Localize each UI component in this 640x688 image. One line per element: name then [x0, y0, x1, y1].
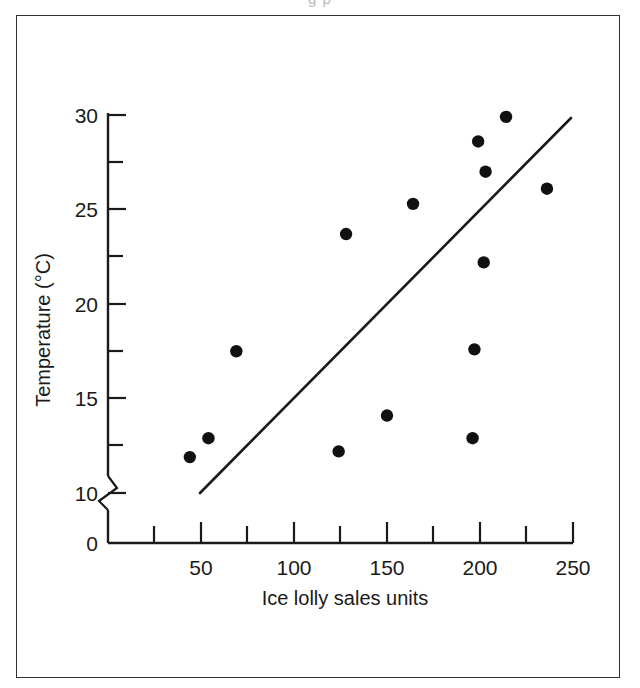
y-tick-label-0: 0 [86, 532, 98, 555]
data-point [468, 343, 480, 355]
data-point [472, 135, 484, 147]
data-point [332, 445, 344, 457]
x-axis-title: Ice lolly sales units [262, 587, 429, 609]
y-tick-label-10: 10 [75, 482, 98, 505]
y-axis-title: Temperature (°C) [32, 253, 54, 407]
data-point [184, 451, 196, 463]
data-points-group [184, 111, 554, 464]
y-tick-label-25: 25 [75, 198, 98, 221]
y-tick-label-20: 20 [75, 293, 98, 316]
y-tick-label-15: 15 [75, 387, 98, 410]
y-tick-label-30: 30 [75, 104, 98, 127]
trend-line [200, 118, 571, 493]
x-axis-ticks [154, 522, 573, 543]
x-axis-tick-labels: 50 100 150 200 250 [189, 556, 590, 579]
data-point [202, 432, 214, 444]
data-point [500, 111, 512, 123]
axes-group [99, 113, 573, 543]
data-point [407, 198, 419, 210]
scatter-plot: 30 25 20 15 10 0 50 100 150 200 250 Ice … [0, 0, 640, 688]
y-axis-ticks [108, 115, 126, 493]
data-point [466, 432, 478, 444]
data-point [478, 256, 490, 268]
x-tick-label-250: 250 [555, 556, 590, 579]
data-point [541, 183, 553, 195]
data-point [340, 228, 352, 240]
x-tick-label-100: 100 [276, 556, 311, 579]
x-tick-label-200: 200 [462, 556, 497, 579]
data-point [479, 166, 491, 178]
y-axis-tick-labels: 30 25 20 15 10 0 [75, 104, 98, 555]
data-point [230, 345, 242, 357]
x-tick-label-50: 50 [189, 556, 212, 579]
data-point [381, 409, 393, 421]
x-tick-label-150: 150 [369, 556, 404, 579]
